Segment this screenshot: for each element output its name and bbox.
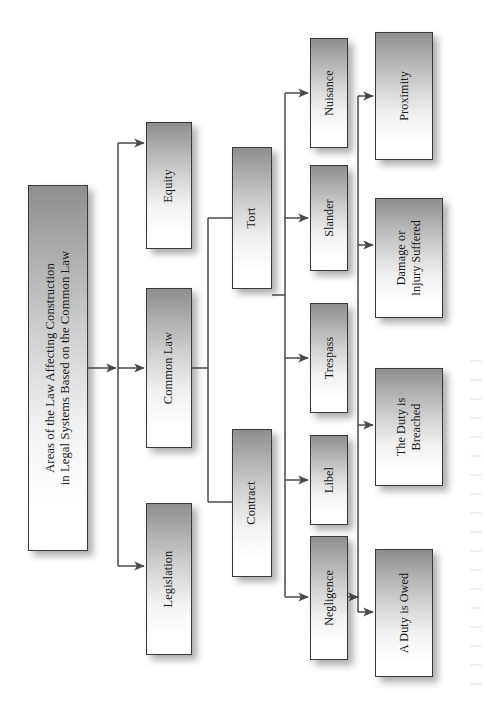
node-common-law[interactable]: Common Law — [146, 288, 192, 448]
node-tort[interactable]: Tort — [232, 147, 272, 289]
diagram-canvas: Areas of the Law Affecting Construction … — [0, 0, 484, 707]
node-proximity[interactable]: Proximity — [375, 32, 433, 160]
node-legislation[interactable]: Legislation — [146, 503, 192, 655]
edge-root-to-level2 — [88, 143, 144, 566]
node-duty-breached[interactable]: The Duty is Breached — [375, 368, 443, 486]
node-negligence-label: Negligence — [322, 570, 337, 626]
node-contract-label: Contract — [244, 481, 259, 524]
node-tort-label: Tort — [244, 208, 259, 229]
node-libel[interactable]: Libel — [310, 435, 348, 525]
node-trespass-label: Trespass — [322, 337, 337, 379]
node-equity-label: Equity — [161, 169, 176, 203]
node-legislation-label: Legislation — [161, 551, 176, 608]
scan-artifact-strip — [470, 360, 482, 700]
node-libel-label: Libel — [322, 467, 337, 493]
node-nuisance[interactable]: Nuisance — [310, 38, 348, 148]
edge-tort-to-torts — [272, 93, 308, 597]
node-nuisance-label: Nuisance — [322, 70, 337, 115]
node-slander-label: Slander — [322, 199, 337, 236]
node-proximity-label: Proximity — [397, 71, 412, 121]
node-duty-owed-label: A Duty is Owed — [397, 573, 412, 653]
node-trespass[interactable]: Trespass — [310, 303, 348, 413]
edge-negligence-to-elements — [348, 96, 373, 612]
node-duty-breached-label: The Duty is Breached — [394, 398, 424, 457]
node-root-label: Areas of the Law Affecting Construction … — [43, 251, 74, 486]
node-damage-or-injury-label: Damage or Injury Suffered — [394, 220, 424, 296]
node-equity[interactable]: Equity — [146, 122, 192, 249]
edge-commonlaw-to-level3 — [192, 218, 232, 502]
node-common-law-label: Common Law — [161, 332, 176, 404]
node-root[interactable]: Areas of the Law Affecting Construction … — [28, 185, 88, 551]
node-negligence[interactable]: Negligence — [310, 536, 348, 660]
node-duty-owed[interactable]: A Duty is Owed — [375, 549, 433, 677]
node-contract[interactable]: Contract — [232, 429, 272, 577]
node-slander[interactable]: Slander — [310, 165, 348, 271]
node-damage-or-injury[interactable]: Damage or Injury Suffered — [375, 198, 443, 318]
